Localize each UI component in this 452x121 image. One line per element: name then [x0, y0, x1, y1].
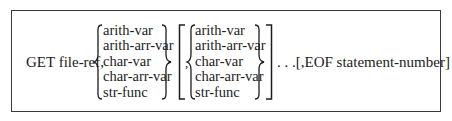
keyword-get: GET: [26, 54, 55, 70]
right-brace-icon: [255, 24, 265, 100]
eof-clause: [,EOF statement-number]: [296, 54, 450, 70]
syntax-tail: . . .[,EOF statement-number]: [277, 55, 450, 70]
right-bracket-icon: [266, 24, 274, 100]
syntax-keyword-and-file-ref: GET file-ref,: [26, 55, 104, 70]
right-brace-icon: [162, 24, 172, 100]
repeat-ellipsis: . . .: [277, 54, 296, 70]
